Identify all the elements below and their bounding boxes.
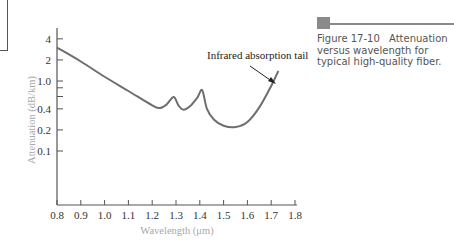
x-tick-label: 1.2 <box>145 209 159 221</box>
figure-caption: Figure 17-10 Attenuation versus waveleng… <box>317 33 454 68</box>
y-tick-label: 1.0 <box>37 75 51 87</box>
x-axis-title: Wavelength (μm) <box>140 225 214 237</box>
figure-rule <box>330 23 454 25</box>
y-tick-label: 0.1 <box>37 145 51 157</box>
figure-number: Figure 17-10 <box>317 33 380 44</box>
x-tick-label: 1.7 <box>264 209 278 221</box>
y-tick-label: 4 <box>46 33 52 45</box>
x-tick-label: 1.3 <box>169 209 183 221</box>
x-tick-label: 0.8 <box>50 209 64 221</box>
infrared-tail-annotation: Infrared absorption tail <box>207 49 308 61</box>
x-tick-label: 1.1 <box>122 209 136 221</box>
x-tick-label: 1.8 <box>288 209 302 221</box>
x-tick-label: 1.0 <box>98 209 112 221</box>
y-tick-label: 2 <box>46 54 52 66</box>
figure-marker <box>317 17 330 29</box>
x-tick-label: 1.4 <box>193 209 207 221</box>
x-tick-label: 1.6 <box>241 209 255 221</box>
y-tick-label: 0.2 <box>37 124 51 136</box>
y-axis-ticks: 421.00.40.20.1 <box>37 33 63 157</box>
y-axis-title: Attenuation (dB/km) <box>26 76 38 164</box>
x-tick-label: 1.5 <box>217 209 231 221</box>
x-tick-label: 0.9 <box>74 209 88 221</box>
annotation-arrow <box>250 66 276 84</box>
y-tick-label: 0.4 <box>37 103 51 115</box>
x-axis-ticks: 0.80.91.01.11.21.31.41.51.61.71.8 <box>50 200 302 221</box>
